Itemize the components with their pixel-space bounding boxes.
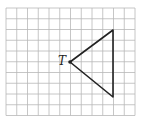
grid-diagram: T (0, 0, 141, 124)
point-label-t: T (58, 55, 66, 67)
point-t-dot (68, 60, 72, 64)
grid-canvas (0, 0, 141, 124)
